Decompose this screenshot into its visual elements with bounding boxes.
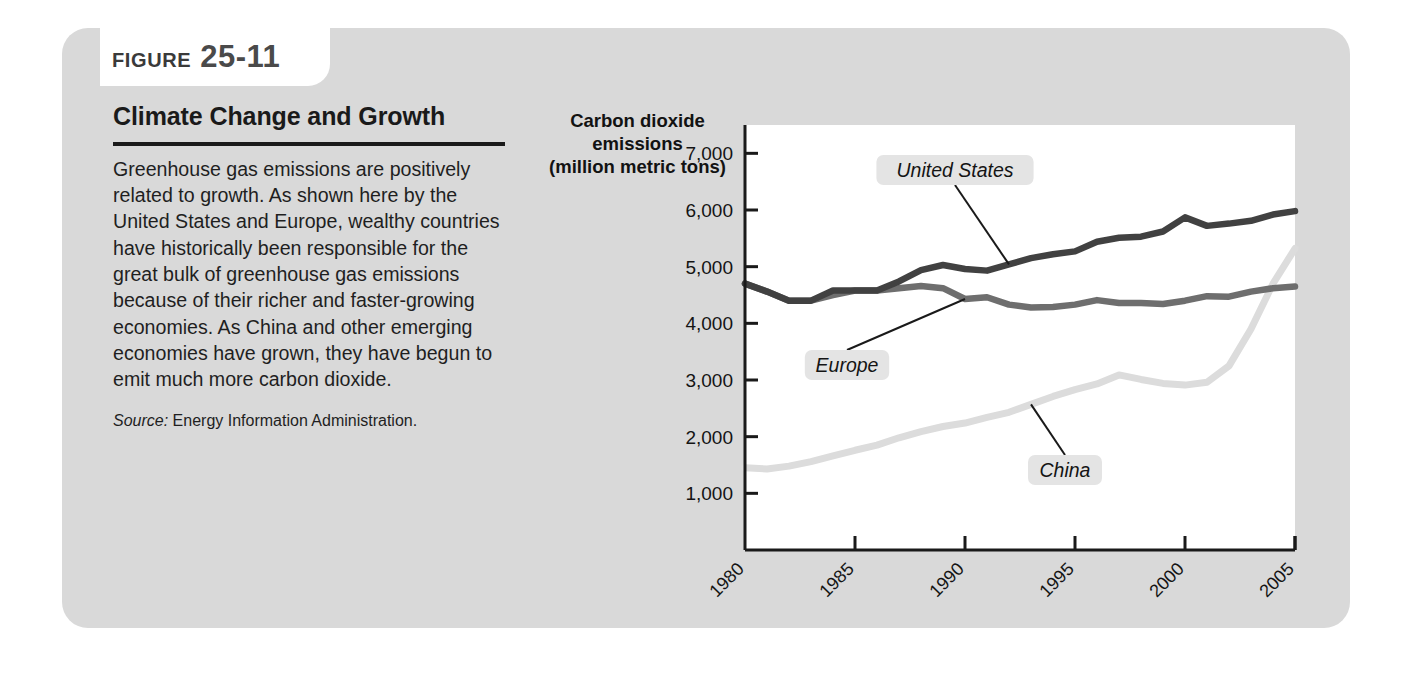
annotation-label-united-states: United States [896,159,1013,181]
source-label: Source: [113,412,168,429]
figure-badge: FIGURE 25-11 [100,28,330,86]
x-tick-label: 2005 [1255,559,1297,601]
figure-title: Climate Change and Growth [113,103,513,131]
figure-description: Greenhouse gas emissions are positively … [113,156,505,393]
y-tick-label: 2,000 [685,427,733,448]
figure-source: Source: Energy Information Administratio… [113,412,513,430]
y-tick-label: 7,000 [685,143,733,164]
annotation-label-china: China [1040,459,1091,481]
x-tick-label: 1980 [705,559,747,601]
x-tick-label: 1995 [1035,559,1077,601]
plot-area-background [745,125,1295,550]
figure-number: 25-11 [200,39,280,75]
figure-badge-inner: FIGURE 25-11 [112,39,280,75]
annotation-label-europe: Europe [816,354,879,376]
y-tick-label: 3,000 [685,370,733,391]
y-tick-label: 5,000 [685,257,733,278]
figure-label-word: FIGURE [112,49,191,72]
plot-background-group [745,125,1295,550]
x-tick-label: 1990 [925,559,967,601]
figure-text-column: Climate Change and Growth Greenhouse gas… [113,103,513,446]
title-divider [113,142,505,146]
chart-block: Carbon dioxide emissions (million metric… [520,110,1320,610]
figure-root: FIGURE 25-11 Climate Change and Growth G… [0,0,1407,685]
y-tick-label: 6,000 [685,200,733,221]
y-tick-label: 1,000 [685,483,733,504]
y-tick-label: 4,000 [685,313,733,334]
x-tick-label: 1985 [815,559,857,601]
x-tick-label: 2000 [1145,559,1187,601]
emissions-line-chart: 7,0006,0005,0004,0003,0002,0001,000 1980… [520,110,1320,610]
source-text: Energy Information Administration. [173,412,418,429]
